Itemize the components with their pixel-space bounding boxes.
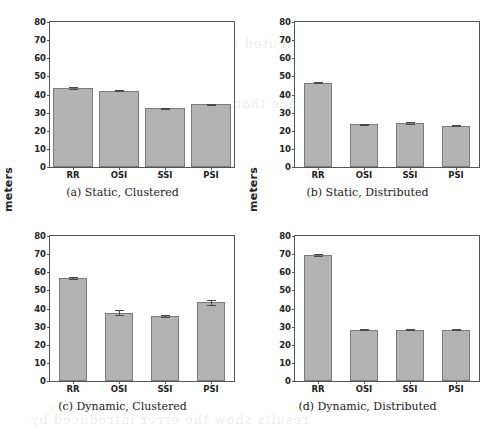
bar-osi	[350, 124, 379, 167]
error-bar-cap-osi-upper	[115, 310, 124, 311]
x-axis-tick-mark	[119, 167, 120, 170]
plot-area-d: 01020304050607080RROSISSIPSI	[294, 235, 480, 382]
bar-psi	[442, 126, 471, 168]
bar-ssi	[145, 108, 184, 167]
y-axis-tick-mark	[292, 345, 295, 346]
y-axis-tick-mark	[47, 113, 50, 114]
y-axis-tick-mark	[292, 76, 295, 77]
y-axis-tick-mark	[47, 254, 50, 255]
y-axis-tick-label: 70	[279, 249, 291, 259]
y-axis-tick-mark	[292, 167, 295, 168]
y-axis-label-a: meters	[2, 0, 16, 49]
y-axis-tick-mark	[47, 363, 50, 364]
y-axis-tick-label: 60	[279, 53, 291, 63]
panel-caption-d: (d) Dynamic, Distributed	[245, 400, 490, 413]
error-bar-cap-psi-lower	[452, 330, 461, 331]
x-axis-tick-mark	[456, 381, 457, 384]
y-axis-tick-label: 30	[279, 108, 291, 118]
y-axis-tick-mark	[47, 149, 50, 150]
x-axis-tick-label-ssi: SSI	[402, 384, 417, 394]
x-axis-tick-label-psi: PSI	[448, 170, 464, 180]
x-axis-tick-mark	[364, 167, 365, 170]
bar-rr	[53, 88, 92, 167]
y-axis-tick-label: 10	[279, 144, 291, 154]
y-axis-tick-mark	[47, 272, 50, 273]
y-axis-tick-label: 20	[34, 126, 46, 136]
y-axis-tick-mark	[292, 113, 295, 114]
x-axis-tick-label-osi: OSI	[356, 170, 373, 180]
y-axis-tick-label: 30	[34, 322, 46, 332]
x-axis-tick-mark	[318, 381, 319, 384]
error-bar-cap-rr-lower	[314, 256, 323, 257]
x-axis-tick-label-rr: RR	[311, 384, 324, 394]
y-axis-tick-label: 40	[279, 304, 291, 314]
bar-rr	[304, 255, 333, 381]
panel-d-dynamic-distributed: meters 01020304050607080RROSISSIPSI (d) …	[245, 214, 490, 428]
y-axis-tick-mark	[47, 40, 50, 41]
plot-area-b: 01020304050607080RROSISSIPSI	[294, 21, 480, 168]
y-axis-tick-mark	[47, 236, 50, 237]
x-axis-tick-mark	[211, 381, 212, 384]
y-axis-tick-label: 60	[34, 267, 46, 277]
y-axis-tick-label: 70	[34, 249, 46, 259]
y-axis-tick-label: 10	[34, 358, 46, 368]
y-axis-tick-mark	[47, 95, 50, 96]
y-axis-tick-label: 40	[34, 304, 46, 314]
error-bar-cap-ssi-lower	[161, 317, 170, 318]
x-axis-tick-label-osi: OSI	[111, 384, 128, 394]
x-axis-tick-label-psi: PSI	[203, 384, 219, 394]
bar-rr	[304, 83, 333, 167]
x-axis-tick-mark	[410, 381, 411, 384]
bar-ssi	[396, 330, 425, 381]
error-bar-cap-ssi-lower	[406, 124, 415, 125]
bar-ssi	[396, 123, 425, 167]
y-axis-tick-label: 30	[279, 322, 291, 332]
y-axis-tick-label: 0	[40, 376, 46, 386]
x-axis-tick-label-rr: RR	[311, 170, 324, 180]
bar-psi	[197, 302, 226, 381]
error-bar-cap-rr-upper	[314, 254, 323, 255]
y-axis-tick-label: 0	[285, 162, 291, 172]
bar-rr	[59, 278, 88, 381]
y-axis-label-d: meters	[247, 116, 261, 263]
panel-caption-b: (b) Static, Distributed	[245, 186, 490, 199]
x-axis-tick-label-osi: OSI	[356, 384, 373, 394]
x-axis-tick-label-psi: PSI	[203, 170, 219, 180]
y-axis-tick-label: 0	[40, 162, 46, 172]
x-axis-tick-label-ssi: SSI	[157, 170, 172, 180]
y-axis-tick-mark	[47, 381, 50, 382]
error-bar-cap-osi-lower	[115, 91, 124, 92]
panel-b-static-distributed: meters 01020304050607080RROSISSIPSI (b) …	[245, 0, 490, 214]
y-axis-tick-label: 80	[279, 231, 291, 241]
error-bar-cap-rr-lower	[69, 89, 78, 90]
y-axis-tick-mark	[292, 290, 295, 291]
y-axis-tick-mark	[47, 327, 50, 328]
y-axis-tick-label: 80	[279, 17, 291, 27]
y-axis-tick-label: 40	[34, 90, 46, 100]
bar-osi	[350, 330, 379, 381]
bar-psi	[442, 330, 471, 381]
x-axis-tick-mark	[73, 381, 74, 384]
figure-bar-chart-grid: the distributed versions of the algorith…	[0, 0, 490, 428]
x-axis-tick-label-osi: OSI	[111, 170, 128, 180]
y-axis-tick-mark	[292, 95, 295, 96]
y-axis-tick-label: 50	[279, 285, 291, 295]
y-axis-tick-mark	[47, 76, 50, 77]
x-axis-tick-mark	[410, 167, 411, 170]
y-axis-tick-mark	[47, 290, 50, 291]
error-bar-cap-osi-lower	[360, 330, 369, 331]
bar-psi	[191, 104, 230, 167]
y-axis-tick-label: 10	[279, 358, 291, 368]
y-axis-tick-mark	[47, 167, 50, 168]
x-axis-tick-mark	[73, 167, 74, 170]
y-axis-tick-label: 70	[279, 35, 291, 45]
y-axis-tick-label: 70	[34, 35, 46, 45]
x-axis-tick-label-psi: PSI	[448, 384, 464, 394]
x-axis-tick-mark	[364, 381, 365, 384]
y-axis-tick-label: 20	[34, 340, 46, 350]
panel-caption-a: (a) Static, Clustered	[0, 186, 245, 199]
x-axis-tick-mark	[456, 167, 457, 170]
y-axis-tick-mark	[47, 345, 50, 346]
y-axis-label-b: meters	[247, 0, 261, 49]
x-axis-tick-label-rr: RR	[66, 384, 79, 394]
